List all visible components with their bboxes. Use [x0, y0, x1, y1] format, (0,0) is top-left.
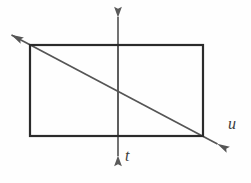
u-axis-group [12, 35, 218, 144]
figure-canvas: t u [0, 0, 251, 183]
t-axis-label: t [125, 148, 129, 164]
u-axis-label: u [228, 116, 236, 132]
u-axis-line [12, 35, 218, 144]
